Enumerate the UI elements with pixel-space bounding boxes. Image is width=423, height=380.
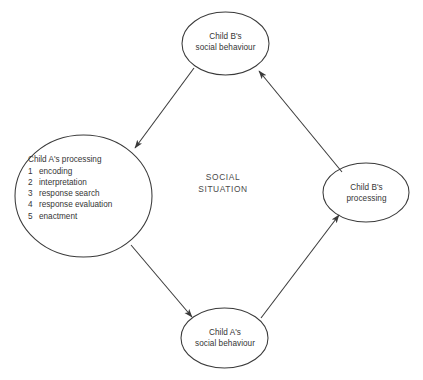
step-number: 3 <box>28 188 33 199</box>
list-item: 4response evaluation <box>28 199 152 210</box>
step-text: enactment <box>39 212 77 221</box>
step-text: encoding <box>39 167 72 176</box>
step-number: 2 <box>28 177 33 188</box>
step-text: response search <box>39 189 100 198</box>
child-a-processing-step-list: 1encoding 2interpretation 3response sear… <box>28 166 152 222</box>
step-number: 5 <box>28 211 33 222</box>
arrow-right-to-top <box>259 71 342 172</box>
caption-remnant <box>0 374 423 380</box>
node-ellipse-child-b-processing <box>323 163 409 222</box>
list-item: 3response search <box>28 188 152 199</box>
step-number: 4 <box>28 199 33 210</box>
arrow-left-to-bottom <box>131 245 192 317</box>
arrow-top-to-left <box>135 68 194 148</box>
node-label-child-a-processing: Child A's processing 1encoding 2interpre… <box>28 154 152 222</box>
list-item: 1encoding <box>28 166 152 177</box>
step-text: response evaluation <box>39 200 112 209</box>
step-number: 1 <box>28 166 33 177</box>
step-text: interpretation <box>39 178 87 187</box>
list-item: 2interpretation <box>28 177 152 188</box>
arrow-bottom-to-right <box>261 215 339 318</box>
child-a-processing-heading: Child A's processing <box>28 154 152 165</box>
list-item: 5enactment <box>28 211 152 222</box>
figure-social-information-processing: Child B's social behaviour Child B's pro… <box>0 0 423 380</box>
center-label-social-situation: SOCIAL SITUATION <box>172 172 274 195</box>
node-ellipse-child-b-social-behaviour <box>182 12 269 75</box>
node-ellipse-child-a-social-behaviour <box>181 308 268 368</box>
